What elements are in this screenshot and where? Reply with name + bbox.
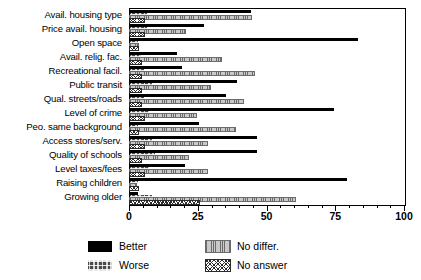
bar-group <box>130 93 405 107</box>
category-label: Quality of schools <box>49 150 122 160</box>
bar <box>130 145 144 147</box>
category-label: Level taxes/fees <box>55 164 122 174</box>
bar-group <box>130 163 405 177</box>
x-tick-minor <box>390 205 391 208</box>
x-tick-label: 0 <box>126 210 132 222</box>
category-label: Public transit <box>69 80 122 90</box>
x-tick-minor <box>322 205 323 208</box>
x-tick-minor <box>377 205 378 208</box>
x-tick-minor <box>239 205 240 208</box>
legend-label: No differ. <box>237 240 279 252</box>
bar <box>130 128 235 130</box>
legend-item: Worse <box>88 259 149 271</box>
bar <box>130 156 188 158</box>
x-axis-tick-labels: 0255075100 <box>0 210 421 226</box>
x-tick-minor <box>280 205 281 208</box>
bar <box>130 150 257 152</box>
category-label: Open space <box>72 38 122 48</box>
category-label: Qual. streets/roads <box>44 94 122 104</box>
bar <box>130 41 138 43</box>
bar <box>130 72 254 74</box>
bar <box>130 173 144 175</box>
category-label: Avail. housing type <box>44 10 122 20</box>
x-tick-label: 75 <box>329 210 341 222</box>
x-tick-minor <box>143 205 144 208</box>
bar <box>130 55 141 57</box>
bar-groups <box>130 9 405 205</box>
category-label: Raising children <box>56 178 122 188</box>
bar <box>130 159 141 161</box>
x-tick-minor <box>184 205 185 208</box>
bar <box>130 170 207 172</box>
bar-group <box>130 107 405 121</box>
bar-group <box>130 149 405 163</box>
bar <box>130 86 210 88</box>
legend-item: No differ. <box>206 240 279 252</box>
x-tick-minor <box>294 205 295 208</box>
legend-item: Better <box>88 240 147 252</box>
category-label: Avail. relig. fac. <box>60 52 122 62</box>
bar <box>130 83 152 85</box>
legend-label: Worse <box>119 259 149 271</box>
bar <box>130 125 138 127</box>
x-tick-minor <box>225 205 226 208</box>
x-tick-label: 50 <box>261 210 273 222</box>
bar <box>130 164 185 166</box>
bar <box>130 69 144 71</box>
bar <box>130 100 243 102</box>
category-label: Level of crime <box>64 108 122 118</box>
legend-swatch-icon <box>206 241 230 252</box>
bar <box>130 136 257 138</box>
bar <box>130 13 147 15</box>
bar <box>130 94 226 96</box>
x-tick-minor <box>170 205 171 208</box>
chart-legend: BetterNo differ.WorseNo answer <box>88 240 338 276</box>
bar <box>130 103 141 105</box>
bar-group <box>130 135 405 149</box>
bar <box>130 114 196 116</box>
bar <box>130 131 138 133</box>
bar <box>130 24 204 26</box>
x-tick-minor <box>349 205 350 208</box>
bar <box>130 178 347 180</box>
x-tick-minor <box>212 205 213 208</box>
bar <box>130 33 144 35</box>
bar-group <box>130 121 405 135</box>
legend-swatch-icon <box>88 241 112 252</box>
bar <box>130 139 152 141</box>
bar-group <box>130 51 405 65</box>
bar <box>130 66 182 68</box>
bar <box>130 89 141 91</box>
x-tick-minor <box>157 205 158 208</box>
bar <box>130 142 207 144</box>
bar <box>130 195 152 197</box>
bar <box>130 30 185 32</box>
bar-group <box>130 23 405 37</box>
category-label: Recreational facil. <box>49 66 122 76</box>
legend-label: No answer <box>237 259 287 271</box>
bar <box>130 75 141 77</box>
bar <box>130 184 136 186</box>
bar <box>130 19 144 21</box>
bar <box>130 58 221 60</box>
bar-group <box>130 177 405 191</box>
bar <box>130 80 237 82</box>
bar <box>130 52 177 54</box>
category-label: Price avail. housing <box>42 24 122 34</box>
bar <box>130 61 141 63</box>
bar <box>130 153 155 155</box>
plot-area <box>129 8 406 206</box>
legend-label: Better <box>119 240 147 252</box>
bar <box>130 16 251 18</box>
bar <box>130 117 144 119</box>
bar <box>130 167 149 169</box>
bar <box>130 44 138 46</box>
bar <box>130 97 144 99</box>
bar <box>130 27 147 29</box>
bar <box>130 187 138 189</box>
legend-swatch-icon <box>88 260 112 271</box>
bar <box>130 111 149 113</box>
bar-group <box>130 79 405 93</box>
bar <box>130 201 199 203</box>
category-label: Growing older <box>64 192 122 202</box>
